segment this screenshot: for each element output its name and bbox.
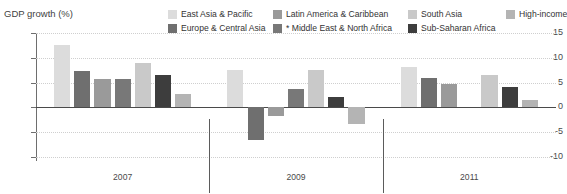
legend-item[interactable]: South Asia xyxy=(408,8,462,21)
bar[interactable] xyxy=(441,84,457,108)
bar[interactable] xyxy=(115,79,131,108)
legend-swatch-icon xyxy=(273,24,282,33)
y-axis-title: GDP growth (%) xyxy=(4,8,73,19)
legend-item[interactable]: East Asia & Pacific xyxy=(168,8,253,21)
plot-area xyxy=(36,33,556,157)
legend-swatch-icon xyxy=(273,10,282,19)
bar[interactable] xyxy=(155,75,171,107)
bar[interactable] xyxy=(502,87,518,108)
legend-item-label: East Asia & Pacific xyxy=(181,10,253,19)
x-tick-label: 2007 xyxy=(93,172,153,182)
legend-item-label: * Middle East & North Africa xyxy=(286,24,392,33)
gridline xyxy=(36,58,556,59)
bar[interactable] xyxy=(135,63,151,107)
legend-item[interactable]: High-income xyxy=(506,8,567,21)
gridline xyxy=(36,33,556,34)
x-tick-label: 2011 xyxy=(439,172,499,182)
zero-baseline xyxy=(36,107,556,108)
bar[interactable] xyxy=(175,94,191,108)
gridline xyxy=(36,132,556,133)
group-separator xyxy=(209,119,210,193)
bar[interactable] xyxy=(401,67,417,108)
bar[interactable] xyxy=(94,79,110,108)
bar[interactable] xyxy=(421,78,437,108)
bar[interactable] xyxy=(481,75,497,107)
legend-swatch-icon xyxy=(506,10,515,19)
bar[interactable] xyxy=(522,100,538,107)
legend-swatch-icon xyxy=(408,10,417,19)
bar[interactable] xyxy=(288,89,304,108)
legend-swatch-icon xyxy=(168,10,177,19)
legend-swatch-icon xyxy=(408,24,417,33)
bar[interactable] xyxy=(248,107,264,139)
bar[interactable] xyxy=(227,70,243,107)
bar[interactable] xyxy=(348,107,364,124)
bar[interactable] xyxy=(74,71,90,107)
legend-swatch-icon xyxy=(168,24,177,33)
bar[interactable] xyxy=(308,70,324,107)
legend-row-top: East Asia & PacificLatin America & Carib… xyxy=(168,8,560,21)
legend-item-label: Sub-Saharan Africa xyxy=(421,24,496,33)
bar[interactable] xyxy=(268,107,284,115)
legend-item[interactable]: Latin America & Caribbean xyxy=(273,8,388,21)
bar[interactable] xyxy=(328,97,344,107)
group-separator xyxy=(383,119,384,193)
bar[interactable] xyxy=(54,45,70,107)
legend-item-label: Latin America & Caribbean xyxy=(286,10,388,19)
legend-item-label: High-income xyxy=(519,10,567,19)
x-tick-label: 2009 xyxy=(266,172,326,182)
legend-item-label: Europe & Central Asia xyxy=(181,24,266,33)
legend-item-label: South Asia xyxy=(421,10,462,19)
axis-bottom-rule xyxy=(36,157,556,158)
